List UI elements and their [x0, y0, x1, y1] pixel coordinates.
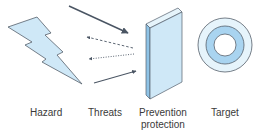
threat-arrow-dotted [89, 54, 134, 59]
label-threats: Threats [88, 107, 122, 119]
label-target: Target [211, 107, 239, 119]
hazard-lightning-icon [8, 17, 82, 84]
target-rings-icon [198, 18, 252, 72]
threat-arrow-solid-bottom [94, 71, 136, 83]
label-prevention: Prevention protection [139, 107, 187, 131]
prevention-barrier-icon [146, 8, 182, 99]
label-hazard: Hazard [30, 107, 62, 119]
threat-arrow-solid-top [69, 6, 128, 33]
threat-arrow-dashed [87, 37, 133, 48]
